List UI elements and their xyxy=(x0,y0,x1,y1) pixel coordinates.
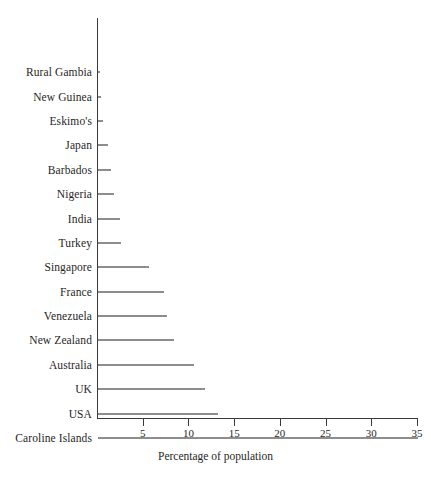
bar-track xyxy=(98,144,418,146)
bar-row: Rural Gambia xyxy=(0,60,431,84)
x-tick-label: 15 xyxy=(229,427,240,439)
category-label: Eskimo's xyxy=(50,115,93,127)
bar-track xyxy=(98,364,418,366)
bar xyxy=(98,96,101,98)
bar-row: India xyxy=(0,206,431,230)
x-tick-label: 25 xyxy=(320,427,331,439)
category-label: Japan xyxy=(65,139,92,151)
x-tick xyxy=(371,418,372,426)
bar xyxy=(98,388,205,390)
x-tick-label: 10 xyxy=(183,427,194,439)
x-tick xyxy=(234,418,235,426)
x-tick-label: 5 xyxy=(140,427,146,439)
bar-row: Eskimo's xyxy=(0,109,431,133)
bar xyxy=(98,193,114,195)
bar xyxy=(98,242,121,244)
x-axis-title: Percentage of population xyxy=(0,450,431,462)
category-label: New Zealand xyxy=(29,334,92,346)
bar-row: Japan xyxy=(0,133,431,157)
x-tick xyxy=(326,418,327,426)
category-label: Caroline Islands xyxy=(15,432,92,444)
bar-track xyxy=(98,120,418,122)
category-label: Australia xyxy=(49,359,92,371)
category-label: UK xyxy=(75,383,92,395)
x-tick xyxy=(143,418,144,426)
bar-track xyxy=(98,242,418,244)
bar-chart: Rural GambiaNew GuineaEskimo'sJapanBarba… xyxy=(0,0,431,480)
bar-track xyxy=(98,266,418,268)
x-tick xyxy=(417,418,418,426)
bar xyxy=(98,144,108,146)
x-tick-label: 35 xyxy=(412,427,423,439)
category-label: USA xyxy=(69,408,92,420)
bar-track xyxy=(98,413,418,415)
x-tick-label: 20 xyxy=(274,427,285,439)
bar-row: Australia xyxy=(0,353,431,377)
x-tick xyxy=(188,418,189,426)
bar-track xyxy=(98,291,418,293)
x-axis-ticks: 5101520253035 xyxy=(97,418,418,448)
bar xyxy=(98,218,120,220)
x-tick xyxy=(280,418,281,426)
bar-row: Venezuela xyxy=(0,304,431,328)
bar-track xyxy=(98,71,418,73)
bar-rows: Rural GambiaNew GuineaEskimo'sJapanBarba… xyxy=(0,60,431,418)
bar-row: UK xyxy=(0,377,431,401)
bar-track xyxy=(98,315,418,317)
category-label: Nigeria xyxy=(57,188,92,200)
bar-track xyxy=(98,339,418,341)
bar-track xyxy=(98,218,418,220)
bar-track xyxy=(98,169,418,171)
category-label: Barbados xyxy=(48,164,92,176)
bar-row: Singapore xyxy=(0,255,431,279)
bar-row: Barbados xyxy=(0,158,431,182)
bar xyxy=(98,339,174,341)
bar-row: France xyxy=(0,280,431,304)
bar xyxy=(98,315,167,317)
bar xyxy=(98,71,100,73)
category-label: New Guinea xyxy=(33,91,92,103)
category-label: France xyxy=(60,286,92,298)
bar-row: Nigeria xyxy=(0,182,431,206)
bar xyxy=(98,364,194,366)
bar xyxy=(98,413,218,415)
category-label: Turkey xyxy=(59,237,92,249)
bar xyxy=(98,291,164,293)
bar-track xyxy=(98,388,418,390)
bar xyxy=(98,266,149,268)
bar-track xyxy=(98,96,418,98)
category-label: Venezuela xyxy=(44,310,92,322)
bar-track xyxy=(98,193,418,195)
bar xyxy=(98,120,103,122)
bar xyxy=(98,169,111,171)
category-label: Rural Gambia xyxy=(26,66,92,78)
x-tick-label: 30 xyxy=(366,427,377,439)
bar-row: New Zealand xyxy=(0,328,431,352)
bar-row: New Guinea xyxy=(0,84,431,108)
category-label: Singapore xyxy=(44,261,92,273)
bar-row: Turkey xyxy=(0,231,431,255)
category-label: India xyxy=(68,213,92,225)
